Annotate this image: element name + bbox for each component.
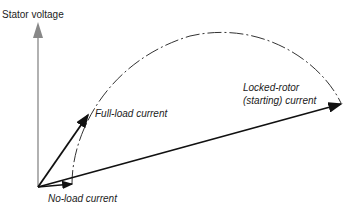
locked-rotor-vector — [38, 104, 341, 187]
circle-diagram: Stator voltage Full-load current Locked-… — [0, 0, 353, 213]
axis-arrow-icon — [33, 22, 43, 38]
locked-rotor-label-2: (starting) current — [243, 95, 316, 107]
no-load-label: No-load current — [48, 193, 117, 205]
axis-label: Stator voltage — [2, 9, 64, 21]
locked-rotor-label-1: Locked-rotor — [243, 82, 299, 94]
full-load-label: Full-load current — [95, 108, 167, 120]
